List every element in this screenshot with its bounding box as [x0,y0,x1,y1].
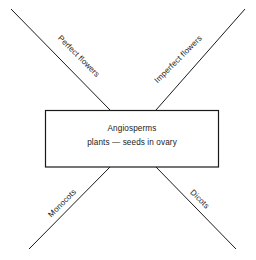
branch-label-monocots: Monocots [46,187,78,219]
branch-label-dicots: Dicots [188,188,211,211]
branch-label-imperfect-flowers: Imperfect flowers [153,34,204,85]
center-box-title: Angiosperms [108,124,157,133]
branch-line-monocots [29,167,110,249]
angiosperm-classification-diagram: Angiosperms plants — seeds in ovary Perf… [0,0,256,260]
branch-line-dicots [156,167,236,249]
diagram-svg-canvas: Angiosperms plants — seeds in ovary Perf… [0,0,256,260]
branch-label-perfect-flowers: Perfect flowers [56,34,101,79]
branch-line-imperfect-flowers [156,9,245,110]
center-box-subtitle: plants — seeds in ovary [87,138,177,147]
branch-line-perfect-flowers [11,9,110,110]
